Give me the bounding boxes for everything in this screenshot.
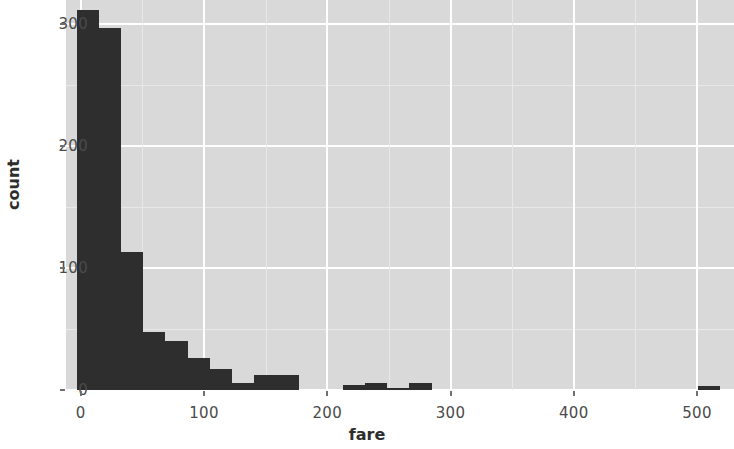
histogram-bar	[210, 369, 232, 390]
histogram-bar	[409, 383, 431, 390]
gridline-vertical-minor	[512, 0, 513, 390]
y-tick-label: 0	[78, 381, 88, 399]
gridline-vertical-minor	[635, 0, 636, 390]
histogram-bar	[99, 28, 121, 390]
histogram-bar	[387, 388, 409, 390]
gridline-vertical-major	[326, 0, 328, 390]
histogram-bar	[77, 10, 99, 390]
x-tick-mark	[203, 391, 205, 396]
x-tick-mark	[450, 391, 452, 396]
gridline-vertical-major	[573, 0, 575, 390]
gridline-horizontal-minor	[66, 85, 734, 86]
gridline-vertical-major	[450, 0, 452, 390]
histogram-bar	[188, 358, 210, 390]
x-tick-mark	[573, 391, 575, 396]
x-tick-label: 400	[559, 404, 589, 422]
y-tick-mark	[60, 23, 65, 25]
gridline-horizontal-major	[66, 23, 734, 25]
gridline-vertical-minor	[389, 0, 390, 390]
histogram-bar	[254, 375, 276, 390]
histogram-bar	[343, 385, 365, 390]
gridline-horizontal-minor	[66, 207, 734, 208]
x-axis-title: fare	[0, 425, 734, 444]
x-tick-label: 0	[76, 404, 86, 422]
histogram-bar	[698, 386, 720, 390]
gridline-horizontal-major	[66, 267, 734, 269]
gridline-vertical-major	[203, 0, 205, 390]
plot-panel	[66, 0, 734, 390]
histogram-chart: 0100200300 0100200300400500 count fare	[0, 0, 734, 449]
x-tick-mark	[80, 391, 82, 396]
gridline-horizontal-minor	[66, 329, 734, 330]
x-tick-mark	[326, 391, 328, 396]
histogram-bar	[143, 332, 165, 391]
histogram-bar	[365, 383, 387, 390]
gridline-vertical-major	[696, 0, 698, 390]
histogram-bar	[121, 252, 143, 390]
y-tick-mark	[60, 267, 65, 269]
x-tick-mark	[696, 391, 698, 396]
x-tick-label: 300	[436, 404, 466, 422]
y-tick-mark	[60, 145, 65, 147]
y-axis-title: count	[4, 150, 23, 220]
x-tick-label: 200	[313, 404, 343, 422]
x-tick-label: 100	[189, 404, 219, 422]
histogram-bar	[165, 341, 187, 390]
y-tick-mark	[60, 389, 65, 391]
x-tick-label: 500	[682, 404, 712, 422]
gridline-horizontal-major	[66, 145, 734, 147]
histogram-bar	[276, 375, 298, 390]
histogram-bar	[232, 383, 254, 390]
gridline-vertical-minor	[266, 0, 267, 390]
